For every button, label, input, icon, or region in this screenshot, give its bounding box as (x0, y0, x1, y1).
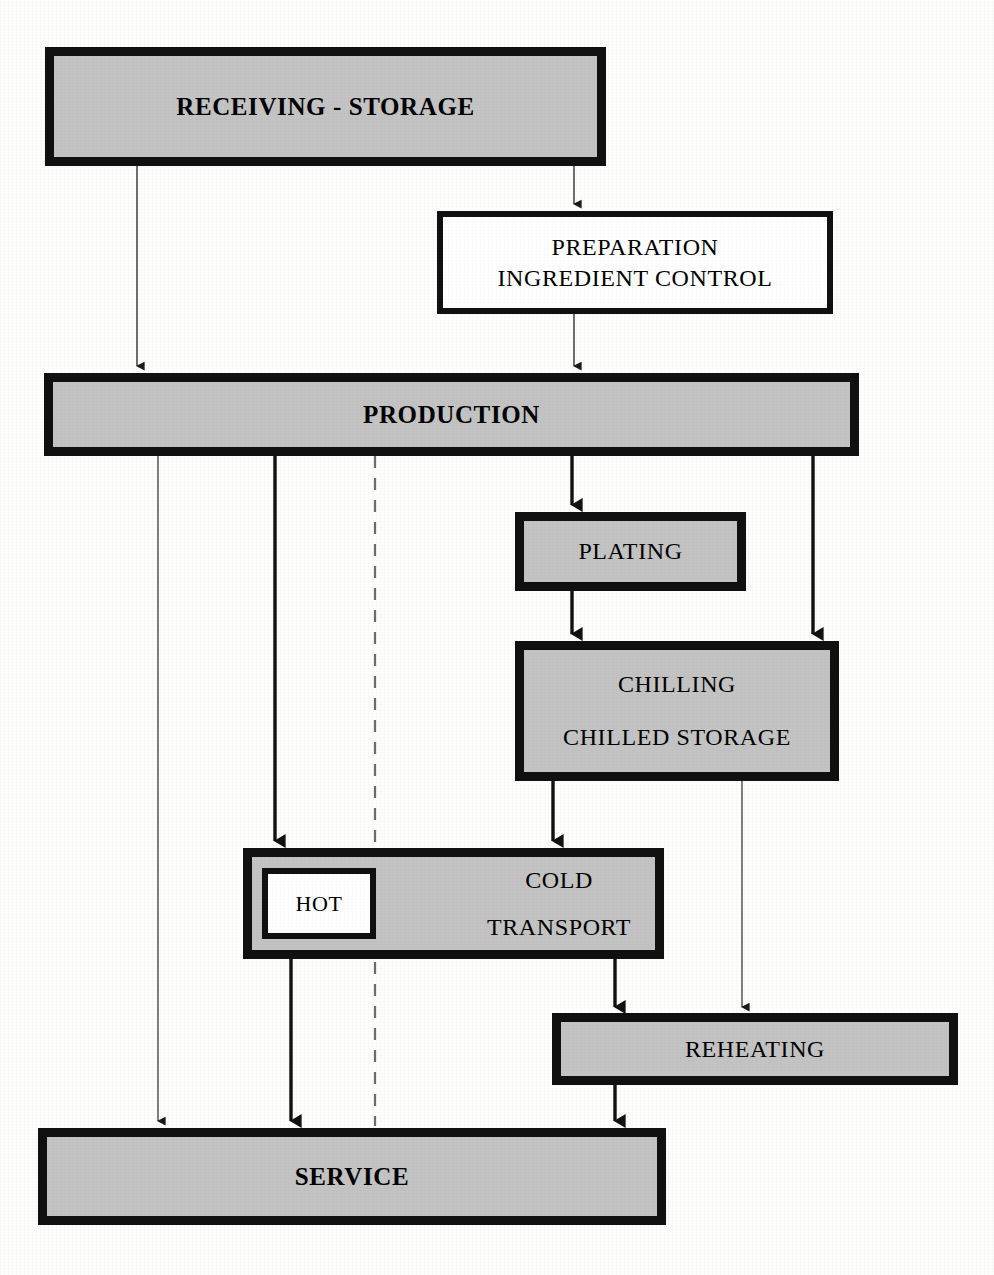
node-plating-label: PLATING (578, 538, 682, 565)
node-hot-label: HOT (295, 891, 342, 917)
node-reheating[interactable]: REHEATING (552, 1013, 958, 1085)
node-reheating-label: REHEATING (685, 1036, 825, 1063)
node-plating[interactable]: PLATING (515, 512, 746, 591)
node-ingredient-control-label: INGREDIENT CONTROL (498, 265, 773, 292)
node-preparation-label: PREPARATION (551, 234, 718, 261)
node-preparation-ingredient-control[interactable]: PREPARATION INGREDIENT CONTROL (437, 211, 833, 314)
node-cold-transport-text: COLD TRANSPORT (487, 867, 631, 941)
node-hot[interactable]: HOT (262, 868, 376, 939)
node-production[interactable]: PRODUCTION (44, 373, 859, 456)
node-cold-label: COLD (525, 867, 593, 894)
node-chilling-label: CHILLING (618, 671, 736, 698)
node-production-label: PRODUCTION (363, 401, 540, 429)
node-service-label: SERVICE (295, 1163, 409, 1191)
node-transport-label: TRANSPORT (487, 914, 631, 941)
node-chilled-storage-label: CHILLED STORAGE (563, 724, 791, 751)
node-service[interactable]: SERVICE (38, 1128, 666, 1225)
node-receiving-storage-label: RECEIVING - STORAGE (176, 93, 475, 121)
node-receiving-storage[interactable]: RECEIVING - STORAGE (45, 47, 606, 166)
node-chilling-chilled-storage[interactable]: CHILLING CHILLED STORAGE (515, 641, 839, 781)
